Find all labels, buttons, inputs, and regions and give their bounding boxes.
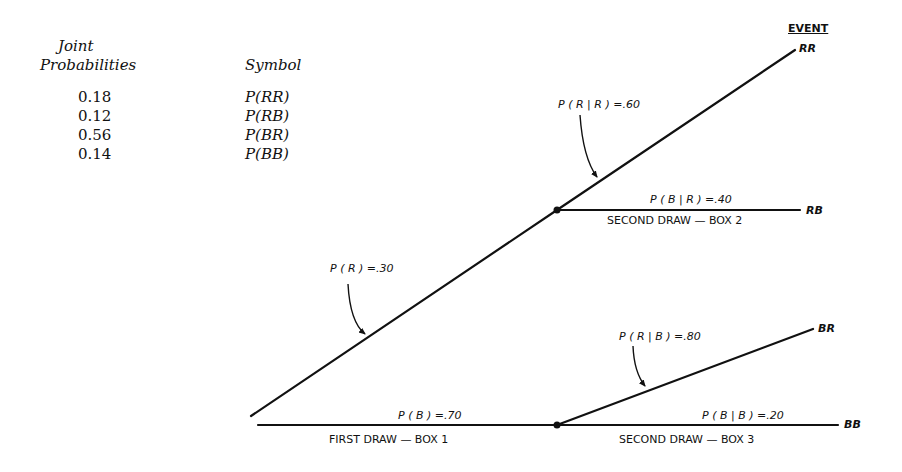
event-rr: RR: [799, 42, 816, 55]
label-p-b-given-b: P ( B | B ) =.20: [702, 409, 784, 422]
node-after-b: [554, 422, 561, 429]
branch-rr: [557, 50, 795, 210]
event-rb: RB: [806, 204, 823, 217]
stage-first-draw: FIRST DRAW — BOX 1: [329, 433, 448, 446]
node-after-r: [554, 207, 561, 214]
event-br: BR: [818, 322, 835, 335]
label-p-b-given-r: P ( B | R ) =.40: [650, 193, 732, 206]
label-p-r-given-b: P ( R | B ) =.80: [619, 330, 701, 343]
label-p-r: P ( R ) =.30: [330, 262, 394, 275]
arrow-p-r: [348, 284, 365, 334]
probability-tree-lines: [0, 0, 902, 472]
arrow-p-r-given-b: [633, 346, 645, 386]
label-p-b: P ( B ) =.70: [398, 409, 461, 422]
branch-r: [251, 210, 557, 416]
event-bb: BB: [844, 418, 861, 431]
stage-second-draw-box3: SECOND DRAW — BOX 3: [619, 433, 754, 446]
stage-second-draw-box2: SECOND DRAW — BOX 2: [607, 214, 742, 227]
arrow-p-r-given-r: [580, 115, 597, 177]
event-header: EVENT: [788, 22, 828, 35]
label-p-r-given-r: P ( R | R ) =.60: [558, 98, 640, 111]
